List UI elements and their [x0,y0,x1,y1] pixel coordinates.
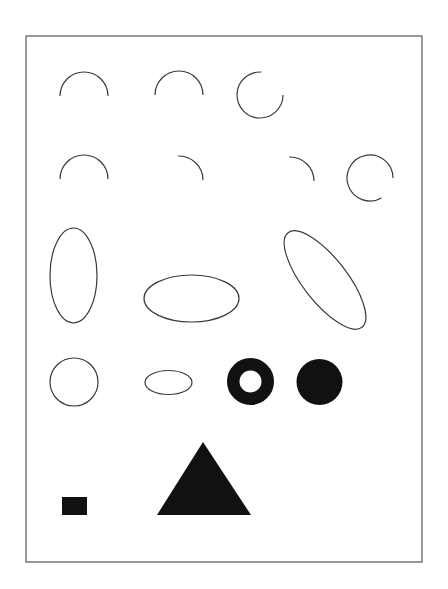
arc-shape [60,155,108,179]
arc-shape [60,72,108,96]
ellipse-shape [50,228,97,323]
arc-shape [289,157,314,181]
row-arcs-1 [60,71,283,118]
filled-circle-shape [297,359,343,405]
shapes-diagram [0,0,448,589]
arc-shape [237,72,283,118]
circle-shape [50,358,98,406]
row-ellipses [50,219,379,341]
arc-shape [155,71,203,95]
arc-shape [178,156,203,180]
row-polygons [62,442,251,515]
filled-triangle-shape [157,442,251,515]
filled-rectangle-shape [62,497,87,515]
ellipse-shape [145,371,192,395]
ring-shape [233,364,268,399]
ellipse-shape [144,275,239,322]
row-arcs-2 [60,155,393,201]
ellipse-shape [271,219,380,341]
row-circles [50,358,343,406]
arc-shape [347,155,393,201]
diagram-svg [0,0,448,589]
